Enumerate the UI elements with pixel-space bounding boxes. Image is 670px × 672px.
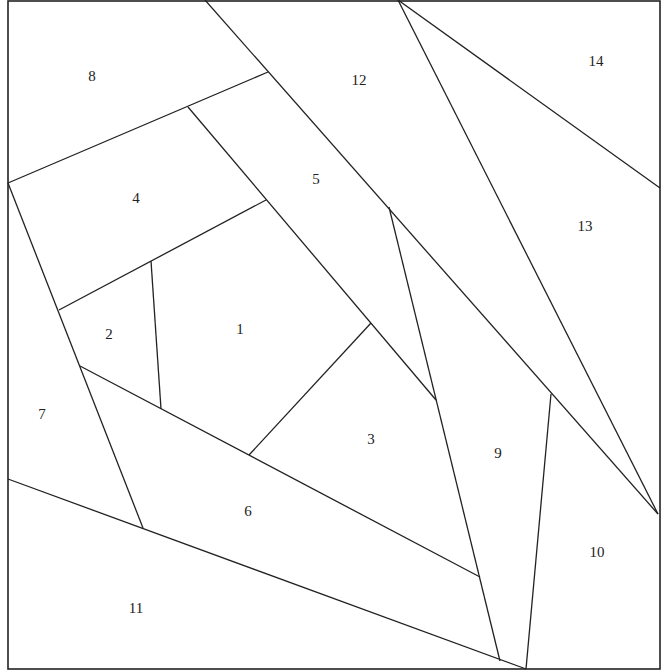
piece-label-10: 10 <box>590 544 605 560</box>
piece-label-2: 2 <box>105 326 113 342</box>
piece-label-4: 4 <box>132 190 140 206</box>
piece-label-1: 1 <box>236 321 244 337</box>
pattern-diagram: 1 2 3 4 5 6 7 8 9 10 11 12 13 14 <box>0 0 670 672</box>
piece-label-6: 6 <box>244 503 252 519</box>
piece-label-5: 5 <box>312 171 320 187</box>
piece-label-7: 7 <box>38 406 46 422</box>
piece-label-8: 8 <box>88 68 96 84</box>
piece-label-9: 9 <box>494 445 502 461</box>
piece-label-14: 14 <box>589 53 605 69</box>
piece-label-3: 3 <box>367 431 375 447</box>
piece-label-13: 13 <box>578 218 593 234</box>
piece-label-12: 12 <box>352 72 367 88</box>
piece-label-11: 11 <box>129 600 143 616</box>
